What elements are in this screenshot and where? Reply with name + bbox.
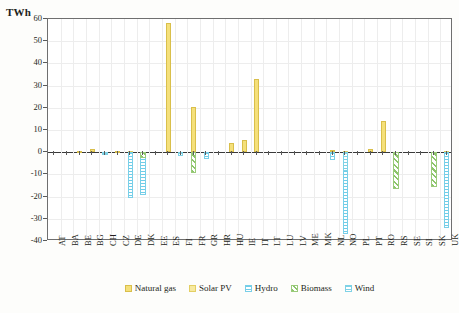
- bar-es-natural-gas: [166, 23, 171, 152]
- legend-label-hydro: Hydro: [255, 283, 278, 293]
- x-axis-tick-label: NL: [336, 235, 346, 246]
- y-axis-tick: [43, 196, 47, 197]
- grid-line-vertical: [390, 19, 391, 239]
- x-axis-tick-label: PL: [361, 236, 371, 246]
- legend-item-biomass[interactable]: Biomass: [291, 283, 332, 293]
- y-axis-tick-label: -20: [10, 191, 42, 201]
- y-axis-tick-label: -10: [10, 168, 42, 178]
- grid-line-vertical: [111, 19, 112, 239]
- x-axis-tick-label: HR: [222, 234, 232, 246]
- legend-item-wind[interactable]: Wind: [345, 283, 375, 293]
- legend-item-hydro[interactable]: Hydro: [245, 283, 278, 293]
- y-axis-tick: [43, 151, 47, 152]
- y-axis-tick: [43, 173, 47, 174]
- x-axis-tick: [433, 151, 434, 155]
- x-axis-tick: [382, 151, 383, 155]
- grid-line-vertical: [162, 19, 163, 239]
- legend-label-wind: Wind: [355, 283, 375, 293]
- y-axis-tick: [43, 18, 47, 19]
- x-axis-tick: [268, 151, 269, 155]
- y-axis-tick: [43, 107, 47, 108]
- y-axis-tick-label: -40: [10, 235, 42, 245]
- x-axis-tick-label: DK: [146, 234, 156, 246]
- legend-item-natural-gas[interactable]: Natural gas: [125, 283, 176, 293]
- legend-swatch-natural-gas-icon: [125, 285, 132, 292]
- grid-line-vertical: [377, 19, 378, 239]
- x-axis-tick: [256, 151, 257, 155]
- x-axis-tick: [281, 151, 282, 155]
- bar-it-natural-gas: [254, 79, 259, 152]
- x-axis-tick: [218, 151, 219, 155]
- bar-ro-natural-gas: [381, 121, 386, 153]
- grid-line-vertical: [415, 19, 416, 239]
- y-axis-tick: [43, 62, 47, 63]
- bar-de-hydro: [128, 152, 133, 198]
- x-axis-tick: [79, 151, 80, 155]
- x-axis-tick: [193, 151, 194, 155]
- x-axis-tick-label: HU: [235, 234, 245, 246]
- x-axis-tick-label: DE: [133, 235, 143, 246]
- grid-line-vertical: [200, 19, 201, 239]
- x-axis-tick-label: PT: [374, 236, 384, 246]
- grid-line-vertical: [301, 19, 302, 239]
- x-axis-tick-label: RO: [386, 234, 396, 246]
- x-axis-tick-label: IT: [260, 238, 270, 246]
- x-axis-tick: [357, 151, 358, 155]
- x-axis-tick: [167, 151, 168, 155]
- y-axis-tick-label: 30: [10, 80, 42, 90]
- grid-line-vertical: [288, 19, 289, 239]
- grid-line-vertical: [225, 19, 226, 239]
- x-axis-tick: [420, 151, 421, 155]
- grid-line-vertical: [440, 19, 441, 239]
- grid-line-vertical: [314, 19, 315, 239]
- x-axis-tick: [142, 151, 143, 155]
- x-axis-tick-label: UK: [450, 234, 459, 246]
- x-axis-tick-label: NO: [348, 234, 358, 246]
- x-axis-tick: [117, 151, 118, 155]
- legend-swatch-wind-icon: [345, 285, 352, 292]
- y-axis-tick-label: 10: [10, 124, 42, 134]
- x-axis-tick-label: ES: [171, 236, 181, 246]
- grid-line-vertical: [326, 19, 327, 239]
- grid-line-vertical: [73, 19, 74, 239]
- x-axis-tick-label: IE: [247, 238, 257, 246]
- x-axis-tick-label: SI: [424, 238, 434, 246]
- y-axis-tick: [43, 129, 47, 130]
- x-axis-tick-label: AT: [57, 236, 67, 246]
- x-axis-tick: [155, 151, 156, 155]
- x-axis-tick-label: FI: [184, 238, 194, 246]
- x-axis-tick-label: CZ: [121, 235, 131, 246]
- x-axis-tick-label: LT: [272, 236, 282, 246]
- y-axis-tick: [43, 40, 47, 41]
- grid-line-vertical: [187, 19, 188, 239]
- bar-sk-biomass: [431, 152, 436, 186]
- legend-item-solar-pv[interactable]: Solar PV: [189, 283, 232, 293]
- x-axis-tick-label: SE: [412, 236, 422, 246]
- y-axis-tick: [43, 240, 47, 241]
- x-axis-tick: [332, 151, 333, 155]
- x-axis-tick-label: LU: [285, 235, 295, 246]
- grid-line-vertical: [124, 19, 125, 239]
- grid-line-vertical: [238, 19, 239, 239]
- x-axis-tick-label: SK: [437, 235, 447, 246]
- x-axis-tick-label: FR: [197, 236, 207, 246]
- legend-swatch-hydro-icon: [245, 285, 252, 292]
- x-axis-tick-label: LV: [298, 235, 308, 246]
- x-axis-tick-label: BE: [83, 235, 93, 246]
- x-axis-tick: [53, 151, 54, 155]
- grid-line-vertical: [99, 19, 100, 239]
- x-axis-tick: [91, 151, 92, 155]
- grid-line-vertical: [276, 19, 277, 239]
- bar-dk-hydro: [140, 152, 145, 195]
- x-axis-tick-label: ME: [310, 233, 320, 246]
- x-axis-tick-label: CH: [108, 234, 118, 246]
- x-axis-tick-label: EE: [159, 236, 169, 246]
- x-axis-tick: [306, 151, 307, 155]
- x-axis-tick: [243, 151, 244, 155]
- grid-line-vertical: [86, 19, 87, 239]
- legend-swatch-solar-pv-icon: [189, 285, 196, 292]
- x-axis-tick-label: BG: [95, 234, 105, 246]
- grid-line-vertical: [213, 19, 214, 239]
- y-axis-tick-label: 20: [10, 102, 42, 112]
- x-axis-tick: [408, 151, 409, 155]
